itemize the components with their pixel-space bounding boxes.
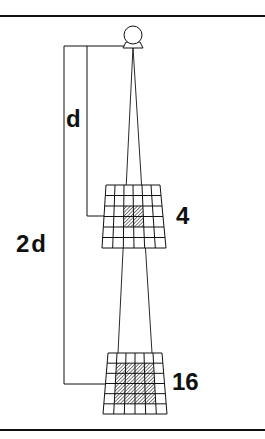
label-area-near: 4	[176, 202, 190, 229]
inverse-square-diagram: d 2d 4 16	[0, 0, 265, 439]
label-area-far: 16	[172, 368, 199, 395]
label-distance-near: d	[66, 105, 81, 132]
near-grid	[102, 185, 166, 248]
light-source-icon	[123, 26, 143, 48]
far-grid	[103, 353, 167, 414]
distance-bracket-near	[87, 46, 105, 216]
label-distance-far: 2d	[16, 230, 48, 257]
